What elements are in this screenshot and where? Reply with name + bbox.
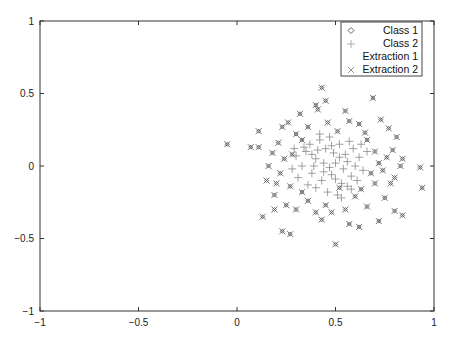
x-tick-label: 0 (234, 317, 240, 328)
legend: Class 1 Class 2 Extraction 1 Extraction … (341, 22, 422, 76)
x-tick-label: −1 (34, 317, 46, 328)
legend-label-extraction1: Extraction 1 (363, 50, 419, 62)
y-tick-label: 0.5 (20, 88, 34, 99)
y-tick-label: 1 (28, 16, 34, 27)
x-tick-label: 1 (431, 317, 437, 328)
scatter-chart: −1−0.500.51−1−0.500.51 Class 1 Class 2 E… (0, 0, 451, 338)
x-tick-label: 0.5 (329, 317, 343, 328)
legend-label-class1: Class 1 (383, 24, 418, 36)
y-tick-label: 0 (28, 161, 34, 172)
y-tick-label: −0.5 (14, 233, 34, 244)
legend-label-class2: Class 2 (383, 37, 418, 49)
x-tick-label: −0.5 (129, 317, 149, 328)
legend-label-extraction2: Extraction 2 (363, 63, 419, 75)
y-tick-label: −1 (23, 306, 35, 317)
